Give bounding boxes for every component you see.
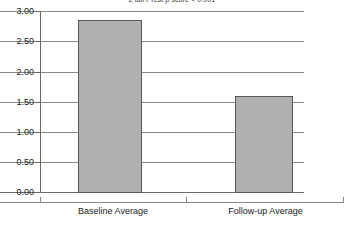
gridline-2 bbox=[0, 72, 304, 73]
y-axis-label-3: 3.00 bbox=[2, 7, 34, 16]
y-axis-label-2: 2.00 bbox=[2, 68, 34, 77]
bar-chart: 2 tail t Test p score < 0.001 3.00 2.50 … bbox=[0, 0, 344, 225]
y-axis-label-0-5: 0.50 bbox=[2, 158, 34, 167]
y-axis-label-1-5: 1.50 bbox=[2, 98, 34, 107]
gridline-3 bbox=[0, 11, 304, 12]
y-axis-label-0: 0.00 bbox=[2, 188, 34, 197]
x-tick-middle bbox=[186, 197, 187, 203]
y-axis-line bbox=[40, 11, 41, 193]
x-axis-label-baseline-average: Baseline Average bbox=[40, 206, 186, 217]
bar-follow-up-average[interactable] bbox=[235, 96, 293, 193]
bar-baseline-average[interactable] bbox=[78, 20, 142, 193]
y-axis-label-2-5: 2.50 bbox=[2, 37, 34, 46]
x-tick-left bbox=[40, 197, 41, 203]
chart-title: 2 tail t Test p score < 0.001 bbox=[0, 0, 344, 4]
y-axis-label-1: 1.00 bbox=[2, 128, 34, 137]
x-axis-label-follow-up-average: Follow-up Average bbox=[187, 206, 344, 217]
gridline-2-5 bbox=[0, 41, 304, 42]
x-axis-line bbox=[0, 202, 344, 203]
